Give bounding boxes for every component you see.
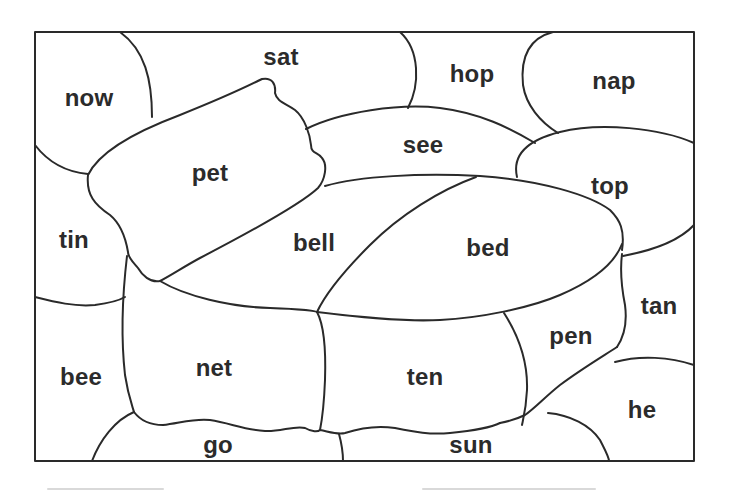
boundary-top: [516, 127, 694, 177]
boundary-go-sun: [339, 434, 343, 461]
region-label-top[interactable]: top: [591, 174, 629, 198]
region-label-hop[interactable]: hop: [450, 62, 495, 86]
boundary-now-tin: [35, 145, 88, 174]
region-label-sat[interactable]: sat: [263, 45, 298, 69]
boundary-go-left: [92, 412, 134, 461]
boundary-tan-he: [615, 358, 694, 365]
region-label-net[interactable]: net: [196, 356, 233, 380]
region-label-go[interactable]: go: [203, 433, 233, 457]
region-label-tan[interactable]: tan: [641, 294, 678, 318]
region-label-see[interactable]: see: [403, 133, 444, 157]
boundary-top-tan: [623, 225, 694, 256]
boundary-pen-tan: [617, 254, 626, 347]
boundary-sat-hop: [400, 32, 416, 108]
boundary-bed-bottom: [160, 244, 622, 320]
boundary-net-ten: [317, 312, 325, 430]
region-label-he[interactable]: he: [628, 398, 656, 422]
boundary-hop-nap: [522, 32, 558, 133]
region-label-ten[interactable]: ten: [407, 365, 444, 389]
region-label-bee[interactable]: bee: [60, 365, 102, 389]
boundary-pen-he: [500, 347, 617, 423]
boundary-sun-he: [548, 413, 609, 461]
boundary-bottom-wave: [134, 412, 500, 434]
boundary-tin-bee: [35, 297, 125, 305]
region-label-now[interactable]: now: [65, 86, 114, 110]
worksheet-frame: [35, 32, 694, 461]
boundary-net-left: [122, 256, 134, 412]
boundary-now: [120, 32, 152, 117]
boundary-ten-pen: [504, 313, 527, 425]
region-label-tin[interactable]: tin: [59, 228, 89, 252]
region-label-bed[interactable]: bed: [466, 236, 509, 260]
region-label-bell[interactable]: bell: [293, 231, 335, 255]
region-label-pet[interactable]: pet: [192, 161, 229, 185]
region-label-pen[interactable]: pen: [549, 324, 592, 348]
boundary-bell-bed-divider: [317, 177, 476, 312]
region-label-sun[interactable]: sun: [449, 433, 492, 457]
region-label-nap[interactable]: nap: [592, 69, 635, 93]
